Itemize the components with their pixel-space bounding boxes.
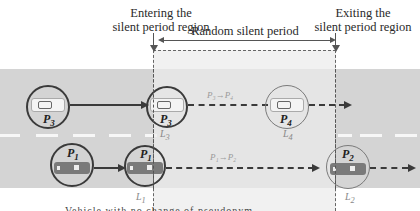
exit-boundary-line — [335, 69, 336, 189]
transition-label: P₁→P₂ — [210, 152, 236, 162]
random-period-label: Random silent period — [165, 24, 325, 38]
location-label: L3 — [160, 128, 170, 142]
car-icon — [270, 98, 304, 112]
arrow-head-icon — [344, 101, 352, 109]
silent-period-region — [153, 50, 336, 211]
car-icon — [31, 98, 65, 112]
bottom-caption-partial: Vehicle with no change of pseudonym — [65, 205, 253, 211]
solid-arrow-line — [70, 104, 145, 106]
exiting-caption-line1: Exiting the — [308, 6, 418, 20]
entry-boundary-line — [153, 69, 154, 189]
span-arrow-left-icon — [158, 37, 164, 43]
location-label: L4 — [283, 128, 293, 142]
silent-dashed-path — [309, 104, 345, 106]
car-icon — [54, 162, 90, 174]
pseudonym-label: P1 — [140, 147, 152, 163]
pseudonym-label: P3 — [43, 112, 55, 128]
arrow-head-icon — [408, 164, 416, 172]
pseudonym-label: P3 — [160, 112, 172, 128]
car-icon — [150, 98, 184, 112]
transition-label: P₃→P₄ — [207, 90, 233, 100]
location-label: L1 — [136, 191, 146, 205]
silent-dashed-path — [166, 167, 314, 169]
exiting-down-arrow-icon — [332, 45, 340, 52]
silent-dashed-path — [188, 104, 268, 106]
pseudonym-label: P1 — [67, 146, 79, 162]
entering-caption-line1: Entering the — [106, 6, 216, 20]
exit-dashed-path — [370, 167, 408, 169]
pseudonym-label: P2 — [342, 147, 354, 163]
location-label: L2 — [345, 191, 355, 205]
car-icon — [127, 162, 163, 174]
pseudonym-label: P4 — [280, 112, 292, 128]
arrow-head-icon — [312, 164, 320, 172]
random-period-span — [160, 40, 332, 41]
entering-down-arrow-icon — [150, 45, 158, 52]
